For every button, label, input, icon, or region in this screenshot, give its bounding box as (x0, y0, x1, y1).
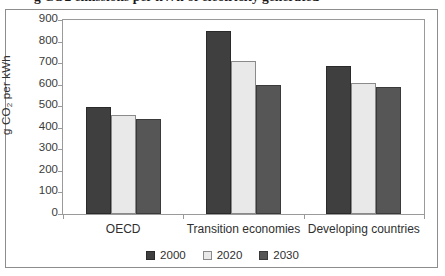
legend-item-2000[interactable]: 2000 (146, 249, 186, 261)
bars-layer (63, 20, 424, 214)
bar-group (206, 20, 281, 214)
y-axis-tick-label: 0 (24, 206, 58, 218)
chart-legend: 200020202030 (0, 249, 445, 261)
x-axis-tick-mark (183, 215, 184, 219)
chart-title-strip: g CO2 emissions per kWh of electricity g… (0, 0, 445, 9)
y-axis-tick-mark (58, 63, 62, 64)
legend-item-2020[interactable]: 2020 (203, 249, 243, 261)
bar-2020-oecd[interactable] (111, 115, 136, 214)
y-axis-tick-mark (58, 85, 62, 86)
x-axis-category-label: Transition economies (183, 222, 303, 236)
legend-label: 2000 (160, 249, 186, 261)
bar-2020-transition-economies[interactable] (231, 61, 256, 214)
x-axis-category-label: Developing countries (304, 222, 424, 236)
bar-2030-transition-economies[interactable] (256, 85, 281, 214)
bar-2000-developing-countries[interactable] (326, 66, 351, 214)
y-axis-tick-label: 200 (24, 163, 58, 175)
y-axis-tick-mark (58, 171, 62, 172)
bar-2000-transition-economies[interactable] (206, 31, 231, 214)
x-axis-tick-mark (63, 215, 64, 219)
page-title: g CO2 emissions per kWh of electricity g… (34, 0, 319, 5)
legend-swatch-icon (203, 251, 212, 260)
y-axis-ticks: 0100200300400500600700800900 (18, 0, 58, 276)
figure-root: g CO2 emissions per kWh of electricity g… (0, 0, 445, 276)
y-axis-label: g CO2 per kWh (0, 0, 16, 193)
legend-label: 2030 (273, 249, 299, 261)
bar-group (86, 20, 161, 214)
y-axis-tick-mark (58, 42, 62, 43)
bar-2020-developing-countries[interactable] (351, 83, 376, 214)
bar-2000-oecd[interactable] (86, 107, 111, 214)
y-axis-tick-label: 300 (24, 141, 58, 153)
legend-swatch-icon (146, 251, 155, 260)
y-axis-label-subscript: 2 (5, 103, 14, 108)
y-axis-tick-label: 800 (24, 34, 58, 46)
y-axis-tick-mark (58, 214, 62, 215)
y-axis-tick-label: 400 (24, 120, 58, 132)
bar-group (326, 20, 401, 214)
y-axis-tick-label: 700 (24, 55, 58, 67)
y-axis-tick-mark (58, 149, 62, 150)
y-axis-tick-mark (58, 106, 62, 107)
x-axis-tick-mark (424, 215, 425, 219)
x-axis-category-label: OECD (63, 222, 183, 236)
legend-item-2030[interactable]: 2030 (259, 249, 299, 261)
y-axis-label-prefix: g CO (0, 107, 12, 135)
y-axis-tick-label: 600 (24, 77, 58, 89)
x-axis-tick-mark (304, 215, 305, 219)
y-axis-tick-label: 500 (24, 98, 58, 110)
y-axis-tick-mark (58, 128, 62, 129)
y-axis-tick-label: 900 (24, 12, 58, 24)
y-axis-tick-label: 100 (24, 184, 58, 196)
bar-2030-oecd[interactable] (136, 119, 161, 214)
y-axis-tick-mark (58, 192, 62, 193)
legend-swatch-icon (259, 251, 268, 260)
y-axis-label-suffix: per kWh (0, 55, 12, 103)
bar-2030-developing-countries[interactable] (376, 87, 401, 214)
legend-label: 2020 (217, 249, 243, 261)
y-axis-tick-mark (58, 20, 62, 21)
